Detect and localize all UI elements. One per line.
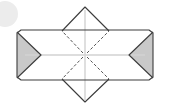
figure-container xyxy=(0,0,170,109)
envelope-diagram-svg xyxy=(0,0,170,109)
corner-circle-mark xyxy=(0,1,18,27)
